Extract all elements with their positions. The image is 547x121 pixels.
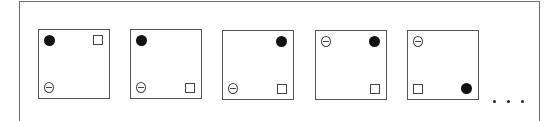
panel-1 bbox=[38, 29, 110, 99]
theta-circle-icon bbox=[136, 82, 146, 93]
theta-circle-icon bbox=[413, 36, 423, 47]
panel-2 bbox=[130, 29, 202, 99]
panel-5 bbox=[407, 30, 479, 100]
ellipsis-dot bbox=[493, 100, 496, 103]
ellipsis-dot bbox=[521, 100, 524, 103]
theta-circle-icon bbox=[321, 36, 331, 47]
panel-4 bbox=[315, 30, 387, 100]
filled-circle-icon bbox=[44, 35, 55, 46]
filled-circle-icon bbox=[276, 36, 287, 47]
filled-circle-icon bbox=[369, 36, 380, 47]
square-icon bbox=[185, 83, 195, 93]
square-icon bbox=[93, 35, 103, 45]
filled-circle-icon bbox=[136, 35, 147, 46]
square-icon bbox=[413, 84, 423, 94]
panel-3 bbox=[222, 30, 294, 100]
filled-circle-icon bbox=[461, 83, 472, 94]
theta-circle-icon bbox=[44, 82, 54, 93]
square-icon bbox=[277, 84, 287, 94]
theta-circle-icon bbox=[228, 83, 238, 94]
square-icon bbox=[370, 84, 380, 94]
ellipsis-dot bbox=[507, 100, 510, 103]
